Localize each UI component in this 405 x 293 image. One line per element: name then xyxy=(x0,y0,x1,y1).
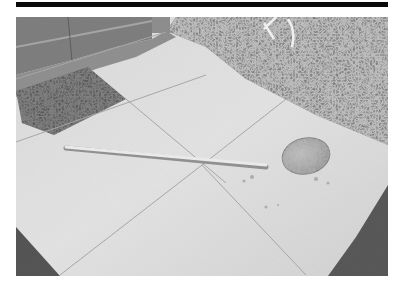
top-rule xyxy=(16,2,388,7)
photograph: Grayscale photograph of a long-handled m… xyxy=(16,17,388,276)
